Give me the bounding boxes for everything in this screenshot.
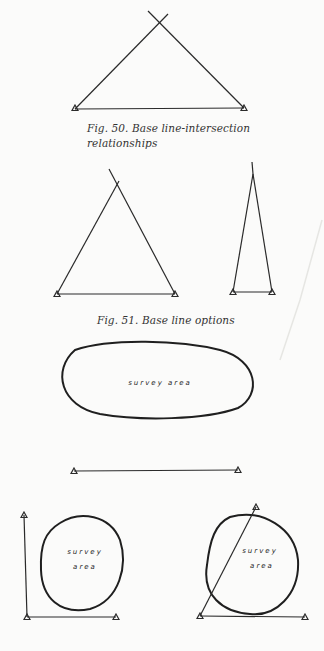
- standalone-base-line: [71, 467, 241, 474]
- fig50-caption-line2: relationships: [87, 136, 157, 151]
- paper-streak: [280, 220, 322, 360]
- circle-left-label-line2: area: [55, 563, 115, 571]
- circle-left-label-line1: survey: [55, 548, 115, 556]
- circle-right-label-line1: survey: [230, 547, 290, 555]
- fig50-intersection-triangle: [72, 11, 247, 111]
- circle-right-label-line2: area: [232, 562, 292, 570]
- fig51-caption: Fig. 51. Base line options: [97, 313, 235, 328]
- fig51-equilateral-triangle: [54, 169, 178, 297]
- fig51-narrow-triangle: [230, 162, 275, 295]
- ellipse-survey-label: survey area: [110, 379, 210, 387]
- fig50-caption-line1: Fig. 50. Base line-intersection: [87, 121, 250, 136]
